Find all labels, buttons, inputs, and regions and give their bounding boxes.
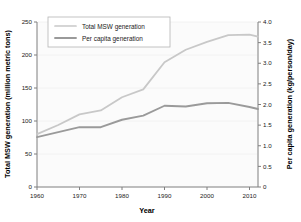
x-axis-ticklabel: 1960 [30,192,44,199]
x-axis-ticklabel: 1970 [73,192,87,199]
x-axis-ticklabel: 1990 [158,192,172,199]
x-axis-title: Year [139,206,155,215]
y-axis-right-ticklabel: 0.5 [263,163,272,170]
y-axis-right-ticklabel: 1.0 [263,142,272,149]
y-axis-left-ticklabel: 250 [22,18,33,25]
y-axis-left-ticklabel: 200 [22,51,33,58]
y-axis-right-ticklabel: 4.0 [263,18,272,25]
x-axis-ticklabel: 2000 [200,192,214,199]
y-axis-left-ticklabel: 0 [29,183,33,190]
legend-label-total-msw-generation: Total MSW generation [82,23,145,31]
y-axis-right-ticklabel: 1.5 [263,121,272,128]
x-axis-ticklabel: 1980 [115,192,129,199]
y-axis-right-ticklabel: 0 [263,183,267,190]
y-axis-left-title: Total MSW generation (million metric ton… [3,30,12,178]
y-axis-left-ticklabel: 100 [22,117,33,124]
y-axis-left-ticklabel: 150 [22,84,33,91]
y-axis-right-ticklabel: 3.5 [263,39,272,46]
x-axis-ticklabel: 2010 [243,192,257,199]
y-axis-left-ticklabel: 50 [25,150,32,157]
chart-legend: Total MSW generation Per capita generati… [48,17,170,47]
legend-box [48,17,170,47]
msw-generation-line-chart: 050100150200250 00.51.01.52.02.53.03.54.… [0,0,301,222]
y-axis-right-ticklabel: 3.0 [263,59,272,66]
y-axis-right-ticklabel: 2.0 [263,101,272,108]
y-axis-right-title: Per capita generation (kg/person/day) [285,38,294,169]
chart-figure: 050100150200250 00.51.01.52.02.53.03.54.… [0,0,301,222]
legend-label-per-capita-generation: Per capita generation [82,35,143,43]
y-axis-right-ticklabel: 2.5 [263,80,272,87]
